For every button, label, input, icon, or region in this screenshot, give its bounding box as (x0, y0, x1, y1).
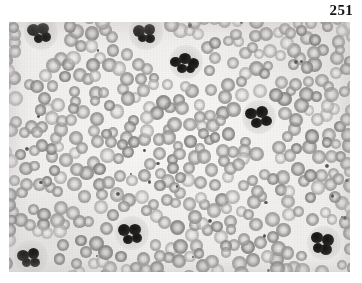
erythrocyte (315, 74, 329, 88)
erythrocyte (328, 168, 339, 179)
erythrocyte (96, 189, 108, 201)
erythrocyte (148, 199, 160, 211)
leukocyte-nuclear-lobe (322, 234, 334, 246)
erythrocyte (69, 131, 83, 145)
erythrocyte (238, 233, 251, 246)
erythrocyte (211, 264, 224, 272)
erythrocyte (9, 45, 21, 58)
erythrocyte (167, 162, 179, 174)
erythrocyte (130, 262, 142, 272)
erythrocyte (189, 219, 201, 231)
erythrocyte (30, 80, 43, 93)
erythrocyte (283, 185, 296, 198)
erythrocyte (286, 86, 297, 97)
erythrocyte (216, 144, 230, 158)
erythrocyte (295, 263, 309, 272)
erythrocyte (124, 121, 136, 133)
erythrocyte (346, 31, 350, 42)
erythrocyte (122, 146, 135, 159)
erythrocyte (24, 219, 36, 231)
erythrocyte (247, 175, 258, 186)
erythrocyte (163, 124, 174, 135)
erythrocyte (227, 57, 239, 69)
erythrocyte (251, 185, 264, 198)
erythrocyte (275, 184, 287, 196)
erythrocyte (190, 239, 204, 253)
erythrocyte (115, 251, 126, 262)
erythrocyte (211, 221, 223, 233)
platelet (188, 23, 193, 28)
erythrocyte (183, 118, 197, 132)
leukocyte-nuclear-lobe (34, 34, 43, 43)
erythrocyte (249, 147, 264, 162)
erythrocyte (228, 239, 240, 251)
erythrocyte (9, 80, 11, 91)
erythrocyte (183, 197, 196, 210)
leukocyte-nuclear-lobe (188, 58, 199, 69)
erythrocyte (272, 141, 286, 155)
erythrocyte (184, 26, 195, 37)
erythrocyte (85, 26, 100, 41)
erythrocyte (9, 223, 16, 237)
erythrocyte (167, 117, 182, 132)
erythrocyte (209, 52, 221, 64)
erythrocyte (215, 193, 229, 207)
leukocyte-nuclear-lobe (144, 24, 155, 35)
leukocyte-nuclear-lobe (28, 248, 39, 259)
erythrocyte (333, 173, 345, 185)
erythrocyte (296, 25, 307, 36)
erythrocyte (311, 180, 325, 194)
erythrocyte (45, 182, 56, 193)
erythrocyte (121, 264, 133, 272)
erythrocyte (194, 99, 206, 111)
erythrocyte (16, 187, 28, 199)
erythrocyte (68, 103, 79, 114)
erythrocyte (173, 23, 188, 38)
erythrocyte (29, 161, 40, 172)
erythrocyte (128, 136, 140, 148)
erythrocyte (230, 29, 242, 41)
erythrocyte (194, 248, 205, 259)
erythrocyte (215, 115, 226, 126)
erythrocyte (340, 113, 350, 126)
erythrocyte (275, 50, 286, 61)
erythrocyte (343, 226, 350, 241)
erythrocyte (218, 22, 231, 28)
erythrocyte (90, 112, 105, 127)
erythrocyte (94, 200, 108, 214)
erythrocyte (93, 178, 106, 191)
erythrocyte (249, 218, 262, 231)
erythrocyte (329, 191, 341, 203)
erythrocyte (185, 84, 199, 98)
erythrocyte (56, 115, 68, 127)
erythrocyte (83, 216, 94, 227)
erythrocyte (99, 24, 112, 37)
leukocyte-nuclear-lobe (177, 64, 187, 73)
erythrocyte (320, 108, 334, 122)
erythrocyte (19, 127, 30, 138)
erythrocyte (241, 240, 255, 254)
erythrocyte (196, 120, 208, 132)
erythrocyte (104, 100, 115, 111)
erythrocyte (128, 115, 139, 126)
erythrocyte (280, 36, 294, 50)
erythrocyte (287, 43, 301, 57)
erythrocyte (273, 27, 284, 38)
erythrocyte (289, 78, 302, 91)
erythrocyte (300, 31, 314, 45)
erythrocyte (275, 152, 287, 164)
erythrocyte (73, 215, 86, 228)
erythrocyte (332, 35, 346, 49)
erythrocyte (307, 46, 321, 60)
erythrocyte (120, 72, 135, 87)
erythrocyte (42, 103, 54, 115)
erythrocyte (158, 216, 171, 229)
erythrocyte (114, 170, 126, 182)
leukocyte-nuclear-lobe (22, 258, 31, 267)
erythrocyte (9, 123, 18, 138)
leukocyte-cytoplasm (169, 45, 203, 79)
erythrocyte (184, 135, 197, 148)
erythrocyte (312, 150, 326, 164)
leukocyte-nuclear-lobe (170, 57, 181, 67)
erythrocyte (221, 78, 235, 92)
